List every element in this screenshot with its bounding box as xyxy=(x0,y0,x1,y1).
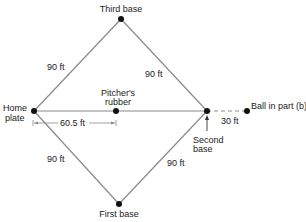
home-to-first-distance: 90 ft xyxy=(47,154,65,164)
diagram-lines xyxy=(0,0,306,222)
home-plate-label-line1: Home xyxy=(3,103,27,113)
baseball-diamond-diagram: Third base First base Home plate Pitcher… xyxy=(0,0,306,222)
home-plate-label-line2: plate xyxy=(5,113,25,123)
home-to-third-distance: 90 ft xyxy=(47,62,65,72)
second-base-point xyxy=(204,108,210,114)
first-to-second-distance: 90 ft xyxy=(167,158,185,168)
second-to-ball-distance: 30 ft xyxy=(221,116,239,126)
third-base-label: Third base xyxy=(96,4,146,14)
ball-point xyxy=(244,108,250,114)
dimension-arrow-right-icon xyxy=(111,122,115,125)
pitchers-rubber-label-line2: rubber xyxy=(96,97,140,107)
pitchers-rubber-point xyxy=(113,108,119,114)
home-plate-point xyxy=(31,108,37,114)
third-base-point xyxy=(118,16,124,22)
second-base-label-line2: base xyxy=(193,144,213,154)
first-base-label: First base xyxy=(94,209,144,219)
first-to-second-line xyxy=(119,111,207,204)
dimension-arrow-left-icon xyxy=(34,122,38,125)
third-to-second-distance: 90 ft xyxy=(145,69,163,79)
ball-label: Ball in part (b) xyxy=(251,101,306,111)
first-base-point xyxy=(116,201,122,207)
second-base-arrow-icon xyxy=(205,115,209,120)
home-to-pitcher-distance: 60.5 ft xyxy=(60,118,85,128)
